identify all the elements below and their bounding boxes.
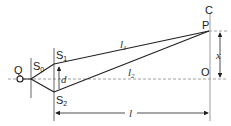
label-l2: l2 <box>128 66 135 80</box>
label-p: P <box>202 19 209 31</box>
path-l2 <box>54 31 209 92</box>
double-slit-diagram: Q S0 S1 S2 d l1 l2 C P O x l <box>0 0 231 126</box>
label-s0: S0 <box>33 60 44 73</box>
source-q <box>17 76 23 82</box>
label-s2: S2 <box>56 94 67 107</box>
label-c: C <box>205 4 213 16</box>
label-x: x <box>215 49 221 61</box>
path-l1 <box>54 31 209 64</box>
label-l: l <box>129 107 132 119</box>
ray-to-s2 <box>31 79 54 92</box>
label-d: d <box>61 73 67 85</box>
label-o: O <box>201 66 210 78</box>
label-l1: l1 <box>120 38 127 52</box>
label-q: Q <box>14 64 23 76</box>
label-s1: S1 <box>56 49 67 62</box>
